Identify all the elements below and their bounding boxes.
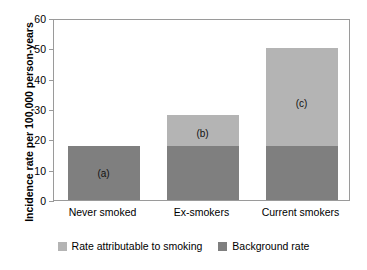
y-axis-tick-mark	[49, 201, 54, 202]
chart-legend: Rate attributable to smokingBackground r…	[0, 240, 367, 252]
y-axis-tick-label: 30	[34, 102, 46, 118]
y-axis-tick: 10	[0, 171, 54, 172]
legend-color-swatch	[218, 242, 227, 251]
legend-label: Background rate	[232, 240, 309, 252]
y-axis-tick: 40	[0, 80, 54, 81]
y-axis-tick-label: 50	[34, 41, 46, 57]
y-axis-tick: 60	[0, 19, 54, 20]
y-axis-tick: 50	[0, 49, 54, 50]
legend-label: Rate attributable to smoking	[72, 240, 203, 252]
bar-segment-background[interactable]	[266, 146, 338, 200]
bar-segment-attributable[interactable]	[266, 48, 338, 146]
plot-area: (a)(b)(c)	[53, 19, 350, 201]
y-axis-tick-label: 10	[34, 163, 46, 179]
y-axis-tick: 30	[0, 110, 54, 111]
y-axis-tick: 0	[0, 201, 54, 202]
x-axis-category-label: Current smokers	[231, 206, 367, 218]
bar-segment-background[interactable]	[68, 146, 140, 200]
y-axis-tick-label: 40	[34, 72, 46, 88]
y-axis-tick-label: 20	[34, 132, 46, 148]
bar-column[interactable]	[266, 48, 338, 200]
legend-entry[interactable]: Background rate	[218, 240, 309, 252]
bar-segment-attributable[interactable]	[167, 115, 239, 146]
bar-segment-background[interactable]	[167, 146, 239, 200]
incidence-rate-bar-chart: Incidence rate per 100,000 person-years …	[0, 0, 367, 270]
legend-color-swatch	[58, 242, 67, 251]
bar-column[interactable]	[167, 115, 239, 200]
legend-entry[interactable]: Rate attributable to smoking	[58, 240, 203, 252]
bar-column[interactable]	[68, 146, 140, 200]
y-axis-tick-label: 60	[34, 11, 46, 27]
y-axis-tick: 20	[0, 140, 54, 141]
